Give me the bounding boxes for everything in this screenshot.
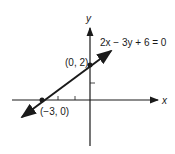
equation-label: 2x − 3y + 6 = 0 [100, 37, 167, 48]
x-axis-label: x [161, 95, 168, 106]
graph-canvas: y x 2x − 3y + 6 = 0 (0, 2) (−3, 0) [0, 0, 175, 154]
point-label-0-2: (0, 2) [65, 57, 88, 68]
point-label-neg3-0: (−3, 0) [40, 106, 69, 117]
point-neg3-0 [40, 98, 45, 103]
y-axis-label: y [85, 13, 92, 24]
